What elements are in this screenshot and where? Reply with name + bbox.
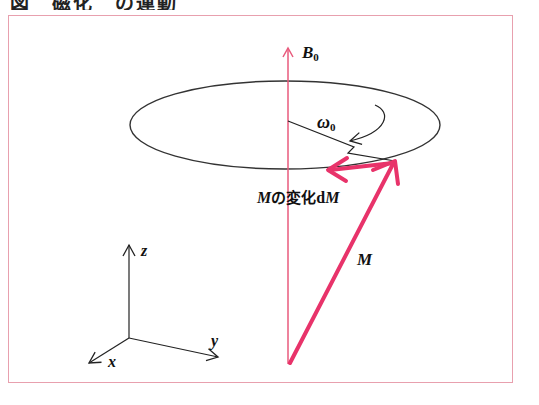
- b0-label: B0: [301, 43, 319, 63]
- precession-diagram: B0 ω0 M Mの変化dM z y x: [0, 0, 539, 405]
- omega-label: ω0: [317, 112, 336, 133]
- z-axis-label: z: [140, 242, 148, 259]
- rotation-arrow-icon: [350, 105, 385, 141]
- precession-orbit: [130, 81, 440, 169]
- x-axis-label: x: [107, 353, 116, 370]
- coordinate-axes: z y x: [89, 242, 219, 370]
- dm-label: Mの変化dM: [256, 189, 340, 207]
- y-axis-label: y: [209, 332, 219, 350]
- m-label: M: [356, 250, 373, 269]
